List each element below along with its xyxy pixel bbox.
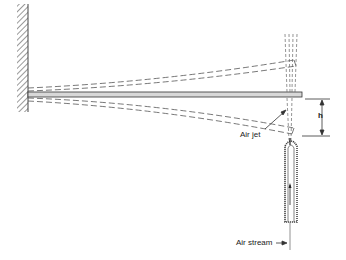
air-jet-label: Air jet	[240, 130, 260, 139]
height-dimension	[302, 99, 330, 136]
upper-deflected-beam	[28, 60, 296, 91]
fixed-wall	[17, 4, 28, 112]
oscillation-trace	[285, 34, 297, 140]
diagram-canvas	[0, 0, 346, 260]
air-stream-leader	[276, 241, 287, 245]
height-label: h	[318, 111, 323, 120]
air-nozzle-tube	[285, 138, 297, 222]
cantilever-beam	[28, 92, 302, 97]
air-stream-label: Air stream	[236, 238, 272, 247]
lower-deflected-beam	[28, 98, 294, 134]
